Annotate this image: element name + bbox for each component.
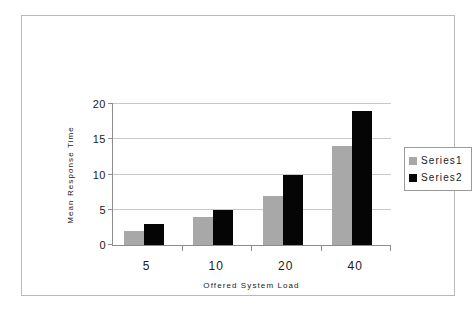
- x-axis-tick-labels: 5102040: [112, 259, 391, 275]
- y-axis-tick-labels: 05101520: [80, 104, 106, 246]
- y-axis-title: Mean Response Time: [63, 104, 77, 246]
- x-tick-mark-5: [182, 246, 183, 251]
- bar-series1-20: [263, 196, 283, 245]
- legend-label: Series2: [421, 172, 463, 183]
- y-tick-mark-5: [108, 209, 113, 210]
- x-tick-mark-20: [321, 246, 322, 251]
- legend-swatch-icon-series1: [409, 157, 417, 165]
- legend-swatch-icon-series2: [409, 174, 417, 182]
- chart-legend: Series1Series2: [404, 147, 472, 191]
- x-tick-mark-10: [251, 246, 252, 251]
- x-tick-mark-40: [390, 246, 391, 251]
- y-tick-label-15: 15: [93, 133, 106, 145]
- bar-series1-5: [124, 231, 144, 245]
- y-tick-label-0: 0: [99, 239, 106, 251]
- x-tick-label-20: 20: [278, 259, 294, 273]
- y-tick-mark-20: [108, 103, 113, 104]
- x-tick-label-40: 40: [347, 259, 363, 273]
- y-tick-mark-10: [108, 174, 113, 175]
- y-tick-label-5: 5: [99, 204, 106, 216]
- x-axis-title: Offered System Load: [112, 281, 391, 290]
- gridline-y-15: [113, 138, 391, 139]
- legend-item-series1[interactable]: Series1: [409, 152, 468, 169]
- y-tick-mark-0: [108, 244, 113, 245]
- x-axis-ticks: [112, 246, 391, 252]
- gridline-y-20: [113, 103, 391, 104]
- y-tick-label-20: 20: [93, 98, 106, 110]
- legend-label: Series1: [421, 155, 463, 166]
- bar-series1-10: [193, 217, 213, 245]
- bar-series1-40: [332, 146, 352, 245]
- x-tick-label-5: 5: [143, 259, 151, 273]
- plot-area: [112, 104, 391, 246]
- bar-series2-5: [144, 224, 164, 245]
- bar-series2-40: [352, 111, 372, 245]
- chart-figure: Mean Response Time 05101520 5102040 Offe…: [0, 0, 476, 316]
- y-tick-mark-15: [108, 138, 113, 139]
- chart-outer-frame: Mean Response Time 05101520 5102040 Offe…: [21, 15, 455, 296]
- bar-series2-10: [213, 210, 233, 245]
- y-tick-label-10: 10: [93, 169, 106, 181]
- bar-series2-20: [283, 175, 303, 246]
- x-tick-label-10: 10: [208, 259, 224, 273]
- legend-item-series2[interactable]: Series2: [409, 169, 468, 186]
